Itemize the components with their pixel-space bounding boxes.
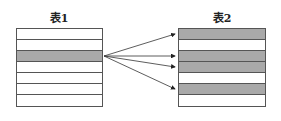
arrows xyxy=(0,0,281,121)
arrow-icon xyxy=(104,34,175,56)
arrow-icon xyxy=(104,56,175,67)
arrow-icon xyxy=(104,56,175,89)
